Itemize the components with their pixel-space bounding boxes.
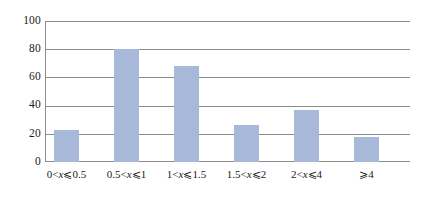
y-tick-label-40: 40	[7, 99, 41, 111]
bar-0	[54, 130, 79, 162]
x-label-pre-1: 0.5<	[107, 168, 127, 180]
plot-area	[45, 21, 410, 162]
y-tick-label-60: 60	[7, 71, 41, 83]
x-label-pre-4: 2<	[291, 168, 303, 180]
bar-chart: 100 80 60 40 20 0 0<x⩽0.5 0.5<x⩽1	[0, 0, 426, 204]
bar-1	[114, 49, 139, 162]
bar-2	[174, 66, 199, 162]
bars-layer	[45, 21, 410, 162]
y-tick-label-80: 80	[7, 43, 41, 55]
bar-4	[294, 110, 319, 162]
y-tick-label-100: 100	[7, 15, 41, 27]
x-label-pre-5: ⩾4	[359, 168, 374, 180]
bar-5	[354, 137, 379, 162]
bar-3	[234, 125, 259, 162]
y-tick-label-20: 20	[7, 128, 41, 140]
y-tick-label-0: 0	[7, 156, 41, 168]
x-axis-tick-labels: 0<x⩽0.5 0.5<x⩽1 1<x⩽1.5 1.5<x⩽2 2<x⩽4 ⩾4	[45, 168, 410, 190]
x-label-post-4: ⩽4	[308, 168, 323, 180]
x-label-pre-3: 1.5<	[227, 168, 247, 180]
x-label-pre-0: 0<	[47, 168, 59, 180]
x-label-pre-2: 1<	[167, 168, 179, 180]
x-tick-label-5: ⩾4	[324, 168, 410, 180]
